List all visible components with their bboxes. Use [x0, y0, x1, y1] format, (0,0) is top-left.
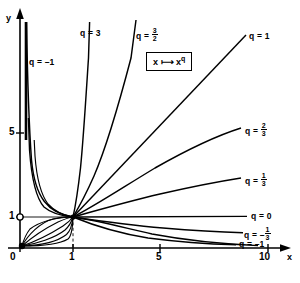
fraction-2-3: 23 — [261, 122, 267, 137]
x-tick-label-1: 1 — [69, 251, 75, 262]
curve-label-q-2-3-text: q = — [245, 126, 261, 136]
fraction-1-3: 13 — [261, 172, 267, 187]
curve-q-3-2 — [73, 20, 136, 217]
fraction-2-3-denominator: 3 — [261, 129, 267, 137]
curve-q-neg1-3 — [73, 217, 243, 233]
curve-q-0 — [73, 216, 247, 217]
x-axis-label: x — [287, 252, 292, 262]
curve-label-q-neg1-bottom-text: q = — [239, 239, 255, 249]
y-tick-label-1: 1 — [9, 210, 15, 221]
curve-label-q-0-value: 0 — [267, 211, 272, 221]
x-tick-label-0: 0 — [10, 251, 16, 262]
fraction-3-2-denominator: 2 — [152, 34, 158, 42]
curve-label-q-1-value: 1 — [265, 31, 270, 41]
fraction-2-3-numerator: 2 — [261, 122, 267, 129]
curve-label-q-neg1-top-text: q = — [29, 57, 45, 67]
curve-label-q-1-3: q = 13 — [245, 172, 267, 187]
curve-label-q-1-3-text: q = — [245, 176, 261, 186]
fraction-neg1-3-numerator: 1 — [265, 226, 271, 233]
curve-label-q-2-3: q = 23 — [245, 122, 267, 137]
curve-label-q-3: q = 3 — [80, 28, 101, 38]
marker-open-circle-y1 — [17, 214, 23, 220]
x-tick-label-10: 10 — [259, 251, 270, 262]
curve-label-q-0-text: q = — [251, 211, 267, 221]
curve-q-2-3 — [73, 128, 241, 217]
formula-annotation-box: x ⟼ xq — [146, 52, 192, 71]
curve-label-q-0: q = 0 — [251, 211, 272, 221]
curve-label-q-3-2-text: q = — [136, 31, 152, 41]
curve-label-q-neg1-bottom-value: –1 — [255, 239, 265, 249]
fraction-3-2-numerator: 3 — [152, 27, 158, 34]
formula-text: x ⟼ x — [153, 57, 181, 67]
curve-label-q-neg1-top-value: –1 — [45, 57, 55, 67]
fraction-neg1-3: 13 — [265, 226, 271, 241]
formula-exponent: q — [181, 55, 185, 62]
curve-left-branch-neg — [28, 118, 73, 217]
curve-label-q-1-text: q = — [249, 31, 265, 41]
curve-label-q-1: q = 1 — [249, 31, 270, 41]
y-axis-arrow — [16, 8, 24, 19]
power-function-chart: y x 1 5 0 1 5 10 x ⟼ xq q = –1 q = 3 q =… — [0, 0, 300, 283]
curve-left-branch-neg2 — [34, 140, 73, 217]
curve-label-q-3-text: q = — [80, 28, 96, 38]
x-tick-label-5: 5 — [156, 251, 162, 262]
fraction-1-3-denominator: 3 — [261, 179, 267, 187]
fraction-1-3-numerator: 1 — [261, 172, 267, 179]
curve-label-q-neg1-bottom: q = –1 — [239, 239, 265, 249]
fraction-3-2: 32 — [152, 27, 158, 42]
curve-q-1-3 — [73, 178, 241, 217]
y-tick-label-5: 5 — [9, 126, 15, 137]
curve-label-q-neg1-top: q = –1 — [29, 57, 55, 67]
curve-q-3 — [73, 22, 90, 217]
curve-label-q-3-value: 3 — [96, 28, 101, 38]
x-axis-arrow — [280, 244, 291, 252]
y-axis-label: y — [6, 13, 11, 23]
fraction-neg1-3-denominator: 3 — [265, 233, 271, 241]
curve-label-q-3-2: q = 32 — [136, 27, 158, 42]
